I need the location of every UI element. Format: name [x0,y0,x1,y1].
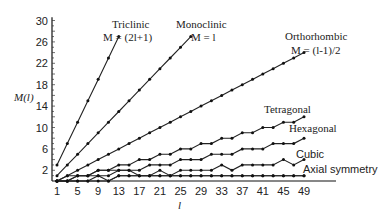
data-point [56,174,59,177]
data-point [200,174,203,177]
data-point [86,180,89,183]
data-point [220,137,223,140]
x-tick-label: 17 [133,185,145,197]
data-point [117,110,120,113]
y-tick-label: 2 [42,164,48,176]
monoclinic-label: Monoclinic [176,18,227,30]
data-point [241,131,244,134]
data-point [179,46,182,49]
data-point [86,163,89,166]
data-point [76,169,79,172]
data-point [117,163,120,166]
data-point [261,126,264,129]
y-tick-label: 22 [36,57,48,69]
data-point [292,56,295,59]
data-point [76,174,79,177]
data-point [179,147,182,150]
x-tick-label: 45 [277,185,289,197]
data-point [200,158,203,161]
x-tick-label: 29 [195,185,207,197]
x-tick-label: 9 [95,185,101,197]
data-point [158,67,161,70]
data-point [179,115,182,118]
data-point [117,174,120,177]
data-point [76,153,79,156]
series-triclinic [56,35,121,166]
data-point [230,89,233,92]
cubic-label: Cubic [296,148,325,160]
data-point [138,169,141,172]
data-point [189,174,192,177]
data-point [241,147,244,150]
data-point [210,153,213,156]
data-point [158,174,161,177]
data-point [251,78,254,81]
data-point [261,147,264,150]
data-point [158,163,161,166]
data-point [251,147,254,150]
data-point [200,142,203,145]
data-point [261,163,264,166]
data-point [107,56,110,59]
data-point [148,158,151,161]
data-point [158,126,161,129]
data-point [179,158,182,161]
data-point [210,169,213,172]
y-tick-label: 14 [36,100,48,112]
orthorhombic-formula: M = (l-1)/2 [291,44,341,57]
data-point [107,174,110,177]
data-point [148,174,151,177]
data-point [158,169,161,172]
x-tick-label: 5 [75,185,81,197]
series-orthorhombic [56,51,306,182]
data-point [200,105,203,108]
data-point [76,121,79,124]
data-point [210,99,213,102]
data-point [117,147,120,150]
data-point [282,142,285,145]
data-point [76,180,79,183]
data-point [220,94,223,97]
y-tick-label: 6 [42,143,48,155]
data-point [292,174,295,177]
x-tick-label: 25 [174,185,186,197]
data-point [138,137,141,140]
data-point [189,169,192,172]
series-monoclinic [56,35,193,177]
data-point [128,169,131,172]
data-point [169,121,172,124]
data-point [56,163,59,166]
data-point [128,174,131,177]
data-point [241,163,244,166]
data-point [148,78,151,81]
data-point [241,174,244,177]
data-point [117,169,120,172]
data-point [230,153,233,156]
monoclinic-formula: M = l [191,31,216,43]
y-tick-label: 10 [36,122,48,134]
chart-container: 2610141822263015913172125293337414549 M(… [0,0,391,215]
data-point [138,158,141,161]
data-point [148,131,151,134]
data-point [282,158,285,161]
data-point [138,174,141,177]
triclinic-formula: M = (2l+1) [103,31,152,44]
x-axis-label: l [178,199,181,211]
data-point [97,158,100,161]
data-point [230,174,233,177]
data-point [169,56,172,59]
data-point [66,163,69,166]
y-axis-label: M(l) [13,91,34,104]
data-point [189,147,192,150]
x-tick-label: 49 [298,185,310,197]
x-tick-label: 1 [54,185,60,197]
data-point [169,163,172,166]
data-point [282,174,285,177]
data-point [107,180,110,183]
data-point [179,169,182,172]
data-point [128,142,131,145]
data-point [86,174,89,177]
data-point [303,115,306,118]
data-point [230,169,233,172]
data-point [220,174,223,177]
